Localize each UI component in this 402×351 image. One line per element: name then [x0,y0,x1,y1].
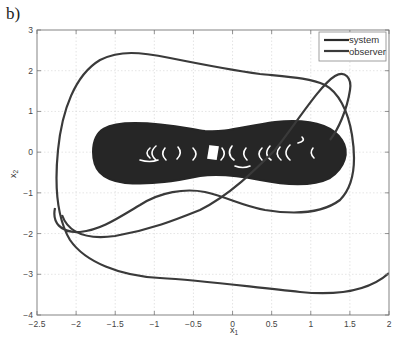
axis-ticks: −2.5−2−1.5−1−0.500.511.52−4−3−2−10123 [23,25,391,329]
phase-portrait-chart: −2.5−2−1.5−1−0.500.511.52−4−3−2−10123 x1… [0,0,402,351]
x-tick-label: −2 [71,319,81,329]
x-tick-label: 1.5 [344,319,356,329]
y-axis-label: x2 [8,170,19,179]
x-tick-label: −1.5 [107,319,124,329]
y-tick-label: 2 [28,66,33,76]
y-tick-label: −1 [23,188,33,198]
legend: system observer [319,32,386,61]
x-axis-label: x1 [230,325,239,336]
y-tick-label: −2 [23,229,33,239]
y-tick-label: 3 [28,25,33,35]
x-tick-label: 0.5 [266,319,278,329]
x-tick-label: −1 [149,319,159,329]
legend-label-system: system [349,34,379,45]
y-tick-label: −3 [23,269,33,279]
y-tick-label: −4 [23,310,33,320]
x-tick-label: −0.5 [185,319,202,329]
legend-label-observer: observer [349,46,386,57]
x-tick-label: 2 [387,319,392,329]
series-system [93,121,346,184]
x-tick-label: 1 [308,319,313,329]
y-tick-label: 1 [28,106,33,116]
plot-area [54,53,389,293]
x-tick-label: −2.5 [29,319,46,329]
y-tick-label: 0 [28,147,33,157]
